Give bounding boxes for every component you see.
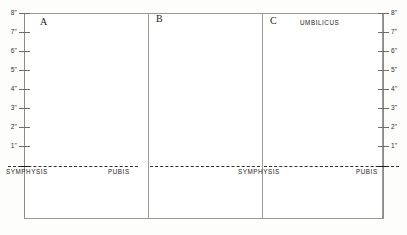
baseline-tick-right: [378, 166, 389, 167]
panel-letter-c: C: [270, 15, 277, 26]
uterine-height-figure: 8" 7" 6" 5" 4" 3" 2" 1" 8" 7" 6" 5" 4" 3…: [0, 0, 407, 235]
right-tick-5: [378, 70, 389, 71]
right-tick-1: [378, 146, 389, 147]
left-tick-label-8: 8": [11, 9, 17, 16]
right-tick-2: [378, 127, 389, 128]
right-tick-label-1: 1": [391, 142, 397, 149]
baseline-label-pubis-left: PUBIS: [108, 168, 130, 175]
right-tick-6: [378, 51, 389, 52]
left-tick-6: [19, 51, 30, 52]
umbilicus-label-c: UMBILICUS: [300, 19, 339, 26]
left-tick-label-2: 2": [11, 123, 17, 130]
right-scale: 8" 7" 6" 5" 4" 3" 2" 1": [383, 13, 384, 219]
right-tick-label-4: 4": [391, 85, 397, 92]
right-tick-label-7: 7": [391, 28, 397, 35]
panel-letter-b: B: [156, 13, 163, 24]
panel-letter-a: A: [40, 16, 47, 27]
right-tick-4: [378, 89, 389, 90]
baseline-label-pubis-right: PUBIS: [356, 168, 378, 175]
left-scale: 8" 7" 6" 5" 4" 3" 2" 1": [24, 13, 25, 219]
baseline-segment-mid: [150, 166, 260, 167]
left-tick-7: [19, 32, 30, 33]
baseline-label-symphysis-right: SYMPHYSIS: [238, 168, 280, 175]
left-tick-4: [19, 89, 30, 90]
right-tick-label-3: 3": [391, 104, 397, 111]
left-tick-label-7: 7": [11, 28, 17, 35]
panel-divider-b-c: [262, 13, 263, 219]
left-tick-label-4: 4": [11, 85, 17, 92]
left-tick-2: [19, 127, 30, 128]
left-tick-3: [19, 108, 30, 109]
left-tick-label-3: 3": [11, 104, 17, 111]
left-tick-label-6: 6": [11, 47, 17, 54]
right-tick-label-8: 8": [391, 9, 397, 16]
left-tick-8: [19, 13, 30, 14]
baseline-label-symphysis-left: SYMPHYSIS: [6, 168, 48, 175]
left-tick-1: [19, 146, 30, 147]
left-tick-5: [19, 70, 30, 71]
left-tick-label-1: 1": [11, 142, 17, 149]
right-tick-7: [378, 32, 389, 33]
right-tick-label-6: 6": [391, 47, 397, 54]
right-tick-label-2: 2": [391, 123, 397, 130]
panel-divider-a-b: [148, 13, 149, 219]
figure-frame: [24, 13, 383, 219]
right-tick-8: [378, 13, 389, 14]
right-tick-3: [378, 108, 389, 109]
left-tick-label-5: 5": [11, 66, 17, 73]
right-tick-label-5: 5": [391, 66, 397, 73]
